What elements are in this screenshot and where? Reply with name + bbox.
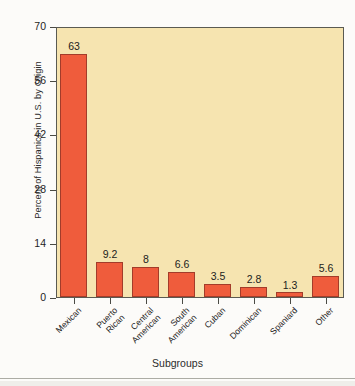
bar-value-label: 8: [126, 253, 166, 265]
x-category-label: Spaniard: [269, 306, 300, 337]
x-category-label: Mexican: [54, 306, 83, 335]
x-category-label: Dominican: [228, 306, 263, 341]
bar-value-label: 1.3: [270, 279, 310, 291]
bar-value-label: 3.5: [198, 270, 238, 282]
bar: [168, 272, 195, 298]
x-category-label: CentralAmerican: [123, 306, 162, 345]
category-label-line: Dominican: [228, 306, 263, 341]
x-tick-mark: [290, 298, 291, 304]
bar-value-label: 5.6: [306, 262, 346, 274]
bar-value-label: 63: [54, 40, 94, 52]
bar-value-label: 2.8: [234, 273, 274, 285]
x-category-label: PuertoRican: [95, 306, 126, 337]
y-tick-label: 56: [10, 74, 46, 86]
bar: [60, 54, 87, 298]
x-tick-mark: [182, 298, 183, 304]
x-tick-mark: [74, 298, 75, 304]
y-tick-label: 14: [10, 237, 46, 249]
x-tick-mark: [326, 298, 327, 304]
x-axis-title: Subgroups: [0, 357, 355, 369]
bar-value-label: 6.6: [162, 258, 202, 270]
category-label-line: Spaniard: [269, 306, 300, 337]
y-tick-mark: [50, 298, 56, 299]
scan-artifact-line: [0, 378, 355, 379]
y-tick-label: 70: [10, 20, 46, 32]
x-tick-mark: [218, 298, 219, 304]
y-tick-label: 28: [10, 183, 46, 195]
category-label-line: Cuban: [203, 306, 228, 331]
x-tick-mark: [146, 298, 147, 304]
category-label-line: Other: [314, 306, 336, 328]
bar: [276, 292, 303, 297]
x-category-label: SouthAmerican: [159, 306, 198, 345]
scan-artifact-band: [0, 381, 355, 386]
x-category-label: Cuban: [203, 306, 228, 331]
x-tick-mark: [110, 298, 111, 304]
x-category-label: Other: [314, 306, 336, 328]
bar: [312, 276, 339, 298]
bar: [132, 267, 159, 298]
bar: [204, 284, 231, 298]
y-tick-label: 0: [10, 291, 46, 303]
x-tick-mark: [254, 298, 255, 304]
bar: [96, 262, 123, 298]
y-tick-label: 42: [10, 128, 46, 140]
bar-value-label: 9.2: [90, 248, 130, 260]
category-label-line: Mexican: [54, 306, 83, 335]
chart-page: Percent of Hispanics in U.S. by Origin 0…: [0, 0, 355, 386]
bar: [240, 287, 267, 298]
